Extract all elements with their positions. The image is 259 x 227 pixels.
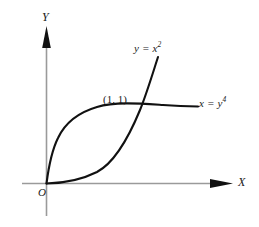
intersection-point-label: (1, 1): [103, 94, 127, 105]
parabola-label-eq: =: [139, 42, 153, 54]
quartic-label-exponent: 4: [223, 95, 227, 104]
curve-label-parabola: y = x2: [134, 43, 161, 54]
parabola-label-exponent: 2: [158, 40, 162, 49]
quartic-label-eq: =: [204, 97, 218, 109]
axis-label-x: X: [238, 176, 245, 188]
x-axis-arrowhead: [210, 179, 233, 188]
figure-canvas: Y X O (1, 1) y = x2 x = y4: [0, 0, 259, 227]
curve-quartic: [47, 103, 199, 183]
axis-label-y: Y: [42, 11, 49, 23]
curve-parabola: [47, 57, 159, 184]
origin-label: O: [38, 187, 46, 198]
curve-label-quartic: x = y4: [199, 98, 226, 109]
y-axis-arrowhead: [42, 26, 51, 48]
